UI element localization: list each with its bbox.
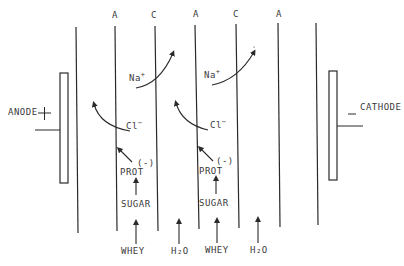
water-label-2: H₂O: [250, 246, 268, 255]
cl-label-2: Cl−: [210, 119, 227, 130]
prot-arrow-2: [200, 148, 213, 161]
na-label-2: Na+: [204, 69, 221, 80]
electrodialysis-diagram: [0, 0, 404, 266]
water-label-1: H₂O: [171, 247, 189, 256]
cell-wall-left: [76, 27, 78, 233]
anode-electrode: [60, 73, 68, 183]
membrane-a-3: [278, 23, 280, 227]
membrane-label-5: A: [276, 10, 282, 19]
membrane-c-1: [155, 26, 158, 231]
membrane-label-3: A: [193, 10, 199, 19]
cell-wall-right: [316, 23, 318, 225]
cl-symbol: Cl: [210, 120, 222, 130]
na-symbol: Na: [204, 70, 216, 80]
cl-symbol: Cl: [126, 121, 138, 131]
prot-arrow-1: [119, 149, 132, 162]
na-charge: +: [141, 71, 146, 79]
cathode-electrode: [329, 71, 337, 180]
membrane-label-4: C: [233, 10, 239, 19]
cl-charge: −: [138, 119, 143, 127]
membrane-c-2: [236, 24, 239, 228]
membrane-label-1: A: [112, 11, 118, 20]
na-symbol: Na: [129, 73, 141, 83]
sugar-label-1: SUGAR: [121, 200, 151, 209]
cl-label-1: Cl−: [126, 120, 143, 131]
na-label-1: Na+: [129, 72, 146, 83]
whey-label-2: WHEY: [205, 246, 229, 255]
prot-label-2: PROT: [199, 167, 223, 176]
na-charge: +: [216, 68, 221, 76]
cl-arrow-2: [176, 103, 208, 130]
cathode-label: CATHODE: [360, 103, 401, 112]
cl-charge: −: [222, 118, 227, 126]
prot-charge-2: (-): [216, 157, 234, 166]
sugar-label-2: SUGAR: [199, 199, 229, 208]
membrane-label-2: C: [151, 11, 157, 20]
speck: [253, 46, 254, 47]
anode-label: ANODE: [8, 108, 38, 117]
membrane-a-1: [115, 26, 117, 231]
whey-label-1: WHEY: [121, 247, 145, 256]
cl-arrow-1: [94, 104, 130, 131]
prot-label-1: PROT: [120, 168, 144, 177]
